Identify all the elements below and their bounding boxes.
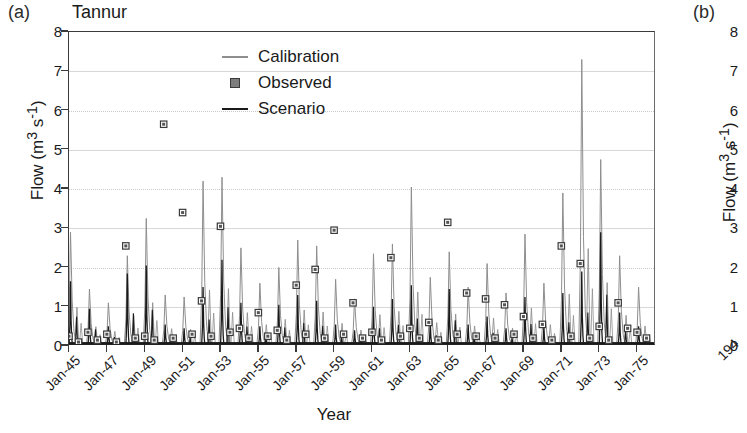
legend-item-observed: Observed	[218, 70, 408, 96]
x-tick-mark-Jan-57	[295, 345, 296, 352]
x-tick-mark-Jan-53	[219, 345, 220, 352]
x-tick-mark-Jan-61	[371, 345, 372, 352]
x-tick-mark-Jan-67	[485, 345, 486, 352]
legend: CalibrationObservedScenario	[218, 44, 408, 122]
legend-label-observed: Observed	[252, 73, 332, 93]
observed-marker	[151, 337, 157, 343]
observed-marker	[274, 327, 280, 333]
observed-marker	[482, 296, 488, 302]
observed-marker	[473, 333, 479, 339]
observed-marker	[189, 331, 195, 337]
panel-b-y-sup-minus1: -1	[716, 128, 732, 141]
observed-marker	[501, 302, 507, 308]
observed-marker	[539, 321, 545, 327]
observed-marker	[549, 337, 555, 343]
y-axis-title-mid: s	[28, 119, 47, 132]
observed-marker	[284, 337, 290, 343]
observed-marker	[511, 331, 517, 337]
x-tick-mark-Jan-75	[636, 345, 637, 352]
x-tick-mark-Jan-55	[257, 345, 258, 352]
observed-marker	[643, 335, 649, 341]
y-axis-sup-3: 3	[24, 132, 40, 140]
observed-marker	[179, 209, 185, 215]
legend-glyph-thin-gray-line	[222, 56, 248, 57]
observed-marker	[104, 331, 110, 337]
y-tick-label-2: 2	[40, 258, 62, 275]
y-tick-label-1: 1	[40, 297, 62, 314]
observed-marker	[265, 333, 271, 339]
legend-label-calibration: Calibration	[252, 47, 339, 67]
observed-marker	[160, 121, 166, 127]
legend-glyph-open-square-marker	[230, 78, 240, 88]
legend-glyph-thick-black-line	[222, 108, 248, 111]
observed-marker	[624, 325, 630, 331]
x-tick-mark-Jan-71	[560, 345, 561, 352]
observed-marker	[94, 337, 100, 343]
observed-marker	[350, 300, 356, 306]
panel-b-y-tick-label-2: 2	[716, 258, 738, 275]
x-tick-mark-Jan-73	[598, 345, 599, 352]
observed-marker	[435, 337, 441, 343]
observed-marker	[587, 335, 593, 341]
observed-marker	[568, 333, 574, 339]
y-tick-mark-8	[61, 30, 68, 31]
observed-marker	[596, 323, 602, 329]
observed-marker	[407, 325, 413, 331]
observed-marker	[558, 243, 564, 249]
observed-marker	[615, 300, 621, 306]
legend-label-scenario: Scenario	[252, 99, 325, 119]
y-tick-label-8: 8	[40, 23, 62, 40]
observed-marker	[634, 329, 640, 335]
observed-marker	[217, 223, 223, 229]
observed-marker	[208, 333, 214, 339]
observed-marker	[198, 298, 204, 304]
observed-marker	[369, 329, 375, 335]
observed-marker	[397, 333, 403, 339]
observed-marker	[227, 329, 233, 335]
observed-marker	[293, 282, 299, 288]
y-tick-mark-0	[61, 344, 68, 345]
x-tick-mark-Jan-51	[182, 345, 183, 352]
observed-marker	[85, 329, 91, 335]
observed-marker	[445, 219, 451, 225]
observed-marker	[463, 290, 469, 296]
y-tick-label-7: 7	[40, 62, 62, 79]
y-axis-sup-minus1: -1	[24, 106, 40, 119]
observed-marker	[170, 335, 176, 341]
observed-marker	[302, 331, 308, 337]
y-tick-mark-5	[61, 148, 68, 149]
legend-key-thick-black-line	[218, 108, 252, 111]
panel-b-y-tick-label-1: 1	[716, 297, 738, 314]
y-tick-label-0: 0	[40, 337, 62, 354]
chart-title: Tannur	[72, 2, 127, 23]
x-tick-mark-Jan-45	[68, 345, 69, 352]
observed-marker	[236, 325, 242, 331]
y-tick-mark-6	[61, 109, 68, 110]
x-tick-mark-Jan-47	[106, 345, 107, 352]
legend-key-thin-gray-line	[218, 56, 252, 57]
legend-item-calibration: Calibration	[218, 44, 408, 70]
panel-a: (a) Tannur Flow (m3 s-1) 012345678 Jan-4…	[0, 0, 668, 433]
observed-marker	[426, 319, 432, 325]
y-tick-mark-1	[61, 305, 68, 306]
observed-marker	[340, 331, 346, 337]
observed-marker	[605, 337, 611, 343]
panel-b-y-tick-label-8: 8	[716, 23, 738, 40]
observed-marker	[359, 335, 365, 341]
y-tick-mark-2	[61, 266, 68, 267]
observed-marker	[132, 335, 138, 341]
observed-marker	[75, 339, 81, 345]
observed-marker	[312, 266, 318, 272]
panel-b-y-axis-text: Flow (m	[720, 162, 739, 222]
y-tick-label-4: 4	[40, 180, 62, 197]
observed-marker	[331, 227, 337, 233]
observed-marker	[378, 337, 384, 343]
legend-item-scenario: Scenario	[218, 96, 408, 122]
y-tick-mark-4	[61, 187, 68, 188]
y-tick-mark-7	[61, 70, 68, 71]
legend-key-open-square-marker	[218, 78, 252, 88]
observed-marker	[416, 335, 422, 341]
y-tick-mark-3	[61, 227, 68, 228]
panel-b-y-axis-mid: s	[720, 141, 739, 154]
scenario-line	[69, 232, 655, 345]
